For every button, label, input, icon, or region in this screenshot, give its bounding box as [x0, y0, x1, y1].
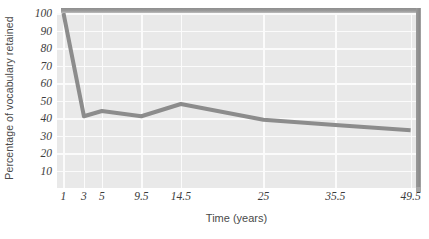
- y-axis-tick-label: 50: [41, 95, 53, 107]
- plot-area: [57, 13, 416, 188]
- vocabulary-retention-chart: Percentage of vocabulary retained 102030…: [0, 0, 429, 239]
- y-axis-tick-label: 20: [41, 147, 53, 159]
- x-axis-tick-label: 14.5: [171, 190, 191, 202]
- plot-frame: [57, 8, 421, 188]
- x-axis-tick-label: 25: [258, 190, 270, 202]
- y-axis-tick-label: 80: [41, 42, 53, 54]
- y-axis-tick-label: 30: [41, 130, 53, 142]
- y-axis-tick-label: 100: [35, 7, 52, 19]
- y-axis-tick-label: 40: [41, 112, 53, 124]
- series-polyline: [63, 13, 410, 130]
- y-axis-tick-labels: 102030405060708090100: [18, 8, 54, 186]
- x-axis-tick-label: 5: [99, 190, 105, 202]
- x-axis-tick-labels: 1359.514.52535.549.5: [57, 190, 416, 208]
- x-axis-tick-label: 1: [61, 190, 67, 202]
- x-axis-tick-label: 35.5: [325, 190, 345, 202]
- y-axis-title-text: Percentage of vocabulary retained: [3, 16, 15, 179]
- x-axis-title: Time (years): [57, 212, 416, 224]
- y-axis-tick-label: 60: [41, 77, 53, 89]
- y-axis-tick-label: 70: [41, 60, 53, 72]
- y-axis-title: Percentage of vocabulary retained: [0, 0, 18, 196]
- y-axis-tick-label: 90: [41, 25, 53, 37]
- series-line: [57, 13, 416, 188]
- x-axis-tick-label: 49.5: [401, 190, 421, 202]
- y-axis-tick-label: 10: [41, 165, 53, 177]
- x-axis-tick-label: 9.5: [134, 190, 148, 202]
- x-axis-tick-label: 3: [81, 190, 87, 202]
- plot-bevel-right: [416, 8, 421, 188]
